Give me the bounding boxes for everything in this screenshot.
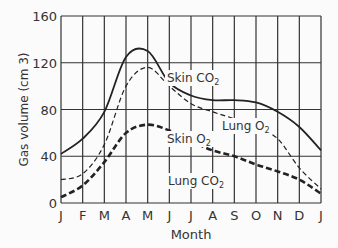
- x-axis-title: Month: [171, 227, 212, 242]
- x-tick-label: J: [166, 208, 171, 223]
- x-tick-label: O: [251, 208, 261, 223]
- x-tick-label: J: [58, 208, 63, 223]
- x-tick-label: D: [294, 208, 304, 223]
- x-tick-label: S: [230, 208, 238, 223]
- series-annotation: Skin CO2: [167, 71, 219, 87]
- x-tick-label: J: [188, 208, 193, 223]
- y-tick-label: 120: [32, 56, 57, 71]
- x-tick-label: N: [273, 208, 283, 223]
- series-annotation: Skin O2: [167, 132, 211, 148]
- x-tick-label: J: [318, 208, 323, 223]
- y-tick-label: 160: [32, 9, 57, 24]
- x-tick-label: A: [208, 208, 217, 223]
- gas-volume-chart: 04080120160JFMAMJJASONDJMonthGas volume …: [0, 0, 338, 248]
- y-tick-label: 0: [49, 196, 57, 211]
- series-annotation: Lung O2: [222, 119, 270, 135]
- x-tick-label: M: [99, 208, 110, 223]
- x-tick-label: M: [142, 208, 153, 223]
- y-axis-title: Gas volume (cm 3): [17, 52, 31, 166]
- y-tick-label: 40: [40, 149, 57, 164]
- y-tick-label: 80: [40, 103, 57, 118]
- x-tick-label: A: [122, 208, 131, 223]
- series-annotation: Lung CO2: [168, 174, 224, 190]
- x-tick-label: F: [79, 208, 86, 223]
